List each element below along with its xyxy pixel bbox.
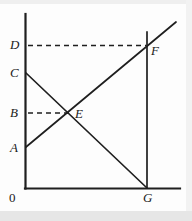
rising-supply-line — [26, 22, 176, 147]
point-label-e: E — [75, 107, 83, 120]
origin-label: 0 — [9, 191, 16, 204]
point-label-b: B — [10, 106, 18, 119]
point-label-c: C — [10, 66, 19, 79]
point-label-a: A — [10, 141, 18, 154]
line-diagram-svg — [0, 0, 192, 221]
point-label-g: G — [143, 191, 152, 204]
figure-container: 0 A B C D E F G — [0, 0, 192, 221]
falling-demand-line — [26, 73, 147, 188]
point-label-d: D — [10, 38, 19, 51]
point-label-f: F — [151, 44, 159, 57]
